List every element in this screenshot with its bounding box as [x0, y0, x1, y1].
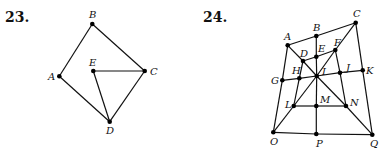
vertex-O	[271, 130, 276, 135]
vertex-label-P: P	[315, 138, 323, 149]
edge-CD	[110, 71, 145, 122]
vertex-label-L: L	[284, 99, 292, 110]
vertex-L	[291, 104, 296, 109]
edge-IJ	[317, 73, 340, 76]
vertex-label-E: E	[88, 57, 97, 68]
vertex-C	[142, 69, 147, 74]
figure-24-number: 24.	[203, 9, 227, 25]
vertex-Q	[370, 132, 375, 137]
edge-QP	[316, 134, 372, 135]
vertex-J	[338, 70, 343, 75]
vertex-label-C: C	[353, 8, 361, 19]
vertex-label-I: I	[321, 66, 327, 77]
vertex-P	[314, 132, 319, 137]
vertex-F	[333, 48, 338, 53]
vertex-label-A: A	[283, 31, 291, 42]
figure-24-graph: ABCDEFGHIJKLMNOPQ	[270, 8, 378, 149]
vertex-label-M: M	[319, 94, 331, 105]
vertex-H	[297, 76, 302, 81]
vertex-D	[301, 59, 306, 64]
edge-GH	[282, 78, 299, 80]
figure-23-number: 23.	[5, 9, 29, 25]
edge-OG	[273, 80, 282, 132]
edge-GA	[282, 45, 287, 80]
vertex-E	[314, 54, 319, 59]
edge-DI	[303, 61, 317, 76]
edge-AB	[288, 36, 317, 45]
vertex-M	[314, 104, 319, 109]
vertex-label-D: D	[105, 125, 114, 136]
edge-AB	[59, 24, 92, 76]
edge-JK	[340, 70, 363, 72]
vertex-label-H: H	[291, 65, 301, 76]
vertex-B	[314, 34, 319, 39]
vertex-label-O: O	[270, 136, 278, 147]
figure-23-graph: ABCDE	[47, 9, 158, 136]
vertex-label-J: J	[344, 62, 351, 73]
vertex-label-A: A	[47, 71, 55, 82]
vertex-label-C: C	[150, 66, 158, 77]
vertex-label-F: F	[333, 37, 342, 48]
edge-FJ	[335, 50, 340, 73]
vertex-label-K: K	[365, 65, 374, 76]
figures-canvas: 23. 24. ABCDE ABCDEFGHIJKLMNOPQ	[0, 0, 381, 163]
vertex-A	[57, 74, 62, 79]
vertex-label-B: B	[312, 22, 320, 33]
vertex-label-B: B	[88, 9, 96, 20]
edge-BC	[92, 24, 144, 71]
edge-BC	[316, 23, 355, 36]
vertex-D	[107, 119, 112, 124]
vertex-I	[314, 74, 319, 79]
vertex-label-Q: Q	[370, 138, 378, 149]
edge-HI	[299, 76, 316, 78]
vertex-C	[353, 20, 358, 25]
vertex-A	[285, 43, 290, 48]
vertex-label-G: G	[271, 75, 279, 86]
vertex-K	[360, 68, 365, 73]
vertex-E	[91, 69, 96, 74]
vertex-B	[90, 22, 95, 27]
edge-PO	[273, 132, 316, 134]
vertex-label-E: E	[317, 43, 326, 54]
vertex-label-N: N	[349, 97, 360, 108]
edge-CK	[356, 23, 363, 71]
vertex-label-D: D	[299, 48, 308, 59]
vertex-N	[344, 104, 349, 109]
vertex-G	[280, 78, 285, 83]
